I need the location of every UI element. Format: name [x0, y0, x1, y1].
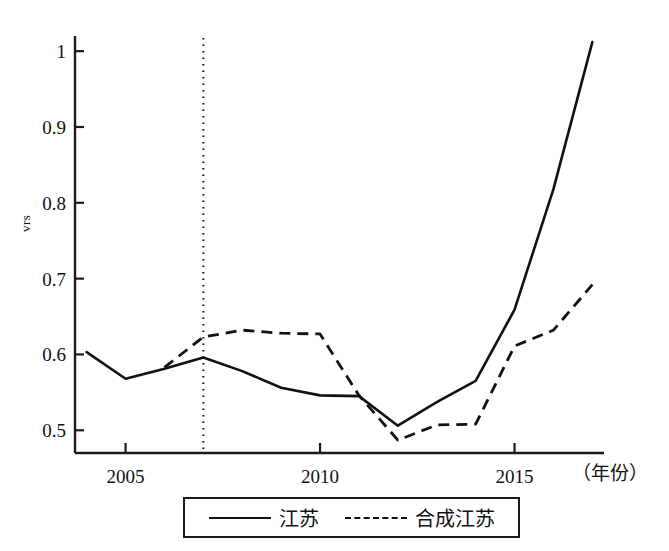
series-line-synthetic-jiangsu	[164, 285, 592, 440]
x-tick-label: 2010	[301, 467, 339, 486]
y-tick-label: 0.9	[0, 117, 66, 136]
y-tick-label: 1	[0, 42, 66, 61]
legend-label-synthetic-jiangsu: 合成江苏	[415, 503, 495, 532]
legend-swatch-solid-icon	[209, 517, 271, 519]
y-tick-label: 0.6	[0, 345, 66, 364]
chart-figure: vrs （年份） 0.50.60.70.80.91200520102015 江苏…	[0, 0, 669, 551]
legend-item-synthetic-jiangsu: 合成江苏	[345, 503, 495, 532]
legend-label-jiangsu: 江苏	[279, 503, 319, 532]
y-tick-label: 0.7	[0, 269, 66, 288]
x-axis-unit-label: （年份）	[572, 458, 648, 485]
legend-swatch-dashed-icon	[345, 517, 407, 519]
legend-item-jiangsu: 江苏	[209, 503, 319, 532]
y-axis-ticks	[75, 51, 84, 430]
y-axis-title: vrs	[18, 215, 34, 232]
y-tick-label: 0.5	[0, 421, 66, 440]
x-tick-label: 2015	[496, 467, 534, 486]
x-tick-label: 2005	[107, 467, 145, 486]
x-axis-ticks	[126, 443, 515, 453]
y-tick-label: 0.8	[0, 193, 66, 212]
series-line-jiangsu	[87, 42, 593, 426]
chart-legend: 江苏 合成江苏	[183, 497, 520, 538]
